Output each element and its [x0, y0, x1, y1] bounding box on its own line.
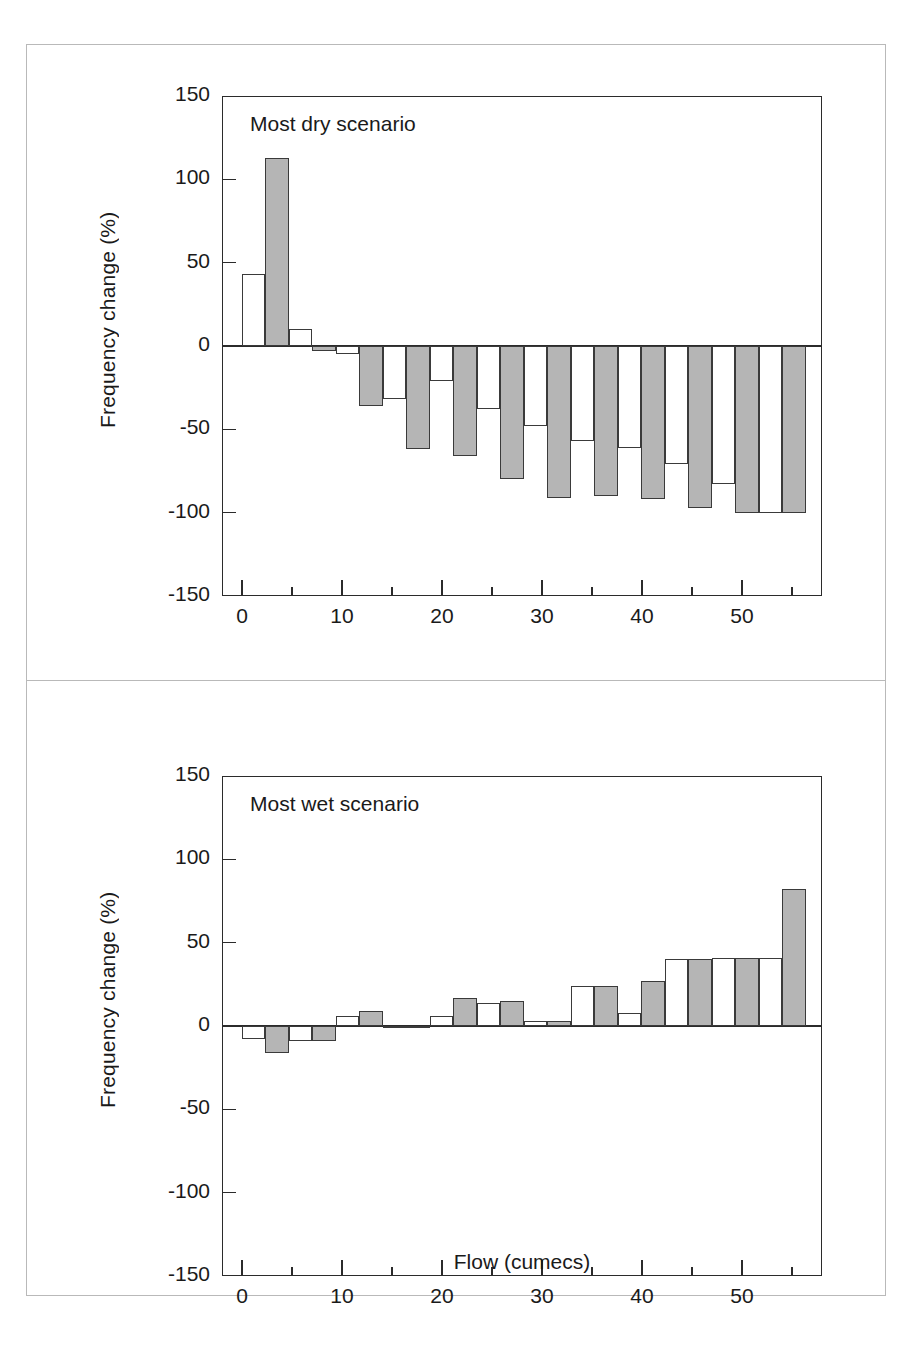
bar-filled: [500, 1001, 524, 1026]
bar-open: [336, 346, 360, 354]
bar-open: [336, 1016, 360, 1026]
bar-open: [618, 1013, 642, 1026]
bar-open: [289, 1026, 313, 1041]
bar-open: [759, 346, 783, 513]
bar-filled: [641, 981, 665, 1026]
bar-open: [712, 346, 736, 484]
bar-filled: [641, 346, 665, 499]
bar-filled: [735, 346, 759, 513]
bar-filled: [453, 346, 477, 456]
bar-filled: [265, 1026, 289, 1053]
bar-open: [571, 346, 595, 441]
bar-filled: [594, 986, 618, 1026]
bar-open: [524, 1021, 548, 1026]
figure-page: Frequency change (%) Most dry scenario 1…: [0, 0, 913, 1372]
bar-open: [430, 1016, 454, 1026]
bar-open: [430, 346, 454, 381]
bar-open: [242, 1026, 266, 1039]
bar-filled: [547, 1021, 571, 1026]
chart-panel-most-dry: Frequency change (%) Most dry scenario 1…: [0, 0, 913, 680]
bar-open: [242, 274, 266, 346]
bar-filled: [688, 346, 712, 508]
bar-filled: [359, 346, 383, 406]
bar-open: [383, 346, 407, 399]
bar-open: [524, 346, 548, 426]
bar-filled: [406, 346, 430, 449]
bar-filled: [735, 958, 759, 1026]
bar-filled: [312, 346, 336, 351]
bar-filled: [359, 1011, 383, 1026]
bar-open: [665, 346, 689, 464]
bar-open: [477, 1003, 501, 1026]
bar-filled: [688, 959, 712, 1026]
bar-open: [618, 346, 642, 448]
bar-open: [383, 1026, 407, 1028]
x-axis-label: Flow (cumecs): [322, 1250, 722, 1274]
bar-filled: [547, 346, 571, 498]
bar-open: [759, 958, 783, 1026]
chart-panel-most-wet: Frequency change (%) Most wet scenario 1…: [0, 680, 913, 1372]
bar-filled: [782, 889, 806, 1026]
bar-open: [712, 958, 736, 1026]
bar-open: [477, 346, 501, 409]
bar-filled: [453, 998, 477, 1026]
bar-open: [289, 329, 313, 346]
bar-filled: [265, 158, 289, 346]
bar-filled: [500, 346, 524, 479]
bar-filled: [312, 1026, 336, 1041]
bar-open: [665, 959, 689, 1026]
bar-filled: [406, 1026, 430, 1028]
bars-top: [0, 0, 913, 680]
bar-filled: [782, 346, 806, 513]
bar-filled: [594, 346, 618, 496]
bar-open: [571, 986, 595, 1026]
